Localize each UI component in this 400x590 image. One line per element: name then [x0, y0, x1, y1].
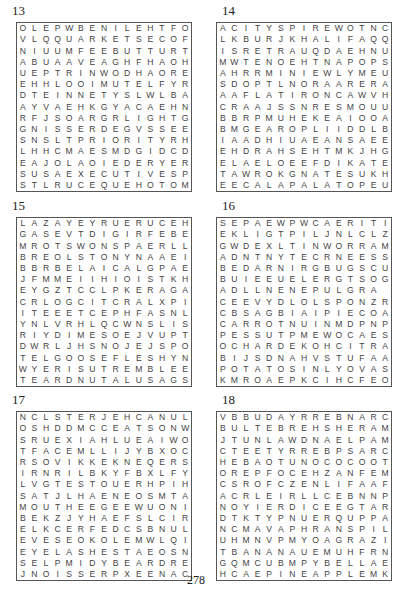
grid-letter: E — [133, 434, 145, 445]
grid-letter: N — [310, 434, 322, 445]
grid-letter: P — [333, 296, 345, 307]
grid-letter: A — [287, 45, 299, 56]
grid-letter: A — [379, 113, 391, 124]
grid-letter: P — [168, 330, 180, 341]
grid-letter: T — [98, 90, 110, 101]
grid-letter: E — [87, 180, 99, 191]
grid-letter: N — [217, 502, 229, 513]
grid-letter: I — [333, 479, 345, 490]
grid-letter: E — [133, 341, 145, 352]
grid-letter: C — [156, 218, 168, 229]
grid-letter: O — [87, 240, 99, 251]
grid-letter: U — [275, 274, 287, 285]
grid-letter: E — [168, 252, 180, 263]
grid-letter: Q — [145, 457, 157, 468]
grid-letter: U — [145, 218, 157, 229]
grid-letter: E — [229, 457, 241, 468]
grid-letter: C — [133, 412, 145, 423]
grid-letter: P — [333, 569, 345, 580]
grid-letter: B — [17, 513, 29, 524]
grid-letter: P — [110, 569, 122, 580]
grid-letter: S — [240, 308, 252, 319]
grid-letter: B — [145, 446, 157, 457]
grid-letter: N — [29, 135, 41, 146]
grid-letter: E — [229, 180, 241, 191]
grid-letter: S — [368, 252, 380, 263]
grid-letter: D — [87, 229, 99, 240]
grid-letter: N — [29, 569, 41, 580]
grid-letter: R — [168, 558, 180, 569]
grid-letter: I — [110, 274, 122, 285]
grid-letter: M — [98, 79, 110, 90]
grid-letter: U — [156, 45, 168, 56]
grid-letter: A — [217, 252, 229, 263]
grid-letter: A — [368, 285, 380, 296]
grid-letter: A — [156, 252, 168, 263]
grid-letter: I — [168, 479, 180, 490]
grid-letter: A — [168, 569, 180, 580]
grid-letter: E — [110, 412, 122, 423]
grid-letter: V — [310, 352, 322, 363]
grid-letter: G — [333, 274, 345, 285]
grid-letter: I — [298, 364, 310, 375]
grid-letter: R — [263, 263, 275, 274]
grid-letter: R — [87, 113, 99, 124]
grid-letter: D — [321, 157, 333, 168]
grid-letter: E — [298, 479, 310, 490]
grid-letter: S — [145, 124, 157, 135]
grid-letter: I — [275, 569, 287, 580]
grid-letter: O — [229, 502, 241, 513]
grid-letter: E — [98, 524, 110, 535]
grid-letter: L — [333, 68, 345, 79]
grid-letter: E — [29, 352, 41, 363]
grid-letter: R — [310, 101, 322, 112]
grid-letter: N — [179, 546, 191, 557]
grid-letter: M — [179, 180, 191, 191]
grid-letter: A — [63, 546, 75, 557]
grid-letter: T — [275, 457, 287, 468]
grid-letter: O — [75, 352, 87, 363]
grid-letter: J — [356, 146, 368, 157]
grid-letter: N — [168, 308, 180, 319]
grid-letter: P — [356, 319, 368, 330]
grid-letter: C — [240, 180, 252, 191]
grid-letter: T — [252, 252, 264, 263]
grid-letter: B — [217, 274, 229, 285]
grid-letter: U — [40, 434, 52, 445]
grid-letter: M — [63, 45, 75, 56]
puzzle-number: 18 — [222, 393, 235, 406]
grid-letter: L — [310, 180, 322, 191]
grid-letter: A — [240, 157, 252, 168]
grid-letter: A — [29, 229, 41, 240]
grid-letter: A — [240, 135, 252, 146]
grid-letter: Y — [345, 68, 357, 79]
grid-letter: D — [110, 524, 122, 535]
grid-letter: N — [310, 364, 322, 375]
grid-letter: O — [179, 434, 191, 445]
grid-letter: N — [333, 229, 345, 240]
grid-letter: A — [75, 113, 87, 124]
grid-letter: I — [333, 124, 345, 135]
grid-letter: W — [98, 68, 110, 79]
grid-letter: S — [133, 513, 145, 524]
grid-letter: C — [217, 101, 229, 112]
puzzle-number: 17 — [12, 393, 25, 406]
grid-letter: N — [121, 457, 133, 468]
grid-letter: S — [98, 330, 110, 341]
grid-letter: D — [240, 263, 252, 274]
grid-letter: C — [87, 308, 99, 319]
grid-letter: E — [298, 157, 310, 168]
grid-letter: E — [298, 423, 310, 434]
grid-letter: T — [121, 79, 133, 90]
grid-letter: I — [287, 90, 299, 101]
grid-letter: Y — [75, 513, 87, 524]
grid-letter: M — [17, 502, 29, 513]
grid-letter: B — [229, 412, 241, 423]
grid-letter: N — [263, 252, 275, 263]
grid-letter: R — [252, 169, 264, 180]
grid-letter: S — [133, 34, 145, 45]
grid-letter: N — [321, 57, 333, 68]
grid-letter: E — [63, 169, 75, 180]
grid-letter: Q — [52, 34, 64, 45]
grid-letter: I — [240, 274, 252, 285]
